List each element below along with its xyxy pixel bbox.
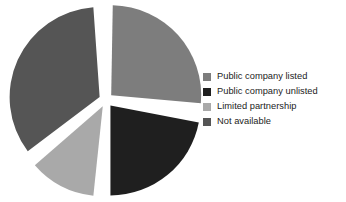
pie-chart: Public company listed Public company unl…	[0, 0, 346, 202]
legend-item-public-company-listed[interactable]: Public company listed	[203, 69, 346, 84]
legend-item-limited-partnership[interactable]: Limited partnership	[203, 99, 346, 114]
pie-slice-public-company-listed[interactable]	[111, 5, 201, 103]
legend-swatch-icon	[203, 103, 211, 111]
legend-item-public-company-unlisted[interactable]: Public company unlisted	[203, 84, 346, 99]
legend-item-label: Public company listed	[217, 71, 307, 82]
legend-item-label: Not available	[217, 116, 271, 127]
legend-swatch-icon	[203, 73, 211, 81]
pie-plot-area	[0, 0, 210, 202]
legend-item-not-available[interactable]: Not available	[203, 114, 346, 129]
chart-legend: Public company listed Public company unl…	[203, 69, 346, 129]
legend-item-label: Limited partnership	[217, 101, 296, 112]
pie-svg	[0, 0, 210, 202]
legend-swatch-icon	[203, 118, 211, 126]
legend-item-label: Public company unlisted	[217, 86, 318, 97]
pie-slice-public-company-unlisted[interactable]	[110, 105, 198, 195]
legend-swatch-icon	[203, 88, 211, 96]
